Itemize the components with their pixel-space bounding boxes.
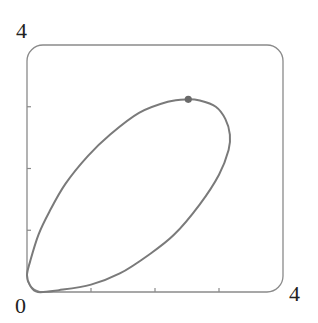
y-max-label: 4 xyxy=(16,18,27,43)
x-max-label: 4 xyxy=(289,281,300,306)
orbit-curve xyxy=(27,99,230,292)
origin-label: 0 xyxy=(15,293,26,318)
plot-frame xyxy=(27,45,283,292)
position-marker xyxy=(185,96,192,103)
phase-plot: 4 0 4 xyxy=(0,0,318,323)
plot-border xyxy=(27,45,283,292)
